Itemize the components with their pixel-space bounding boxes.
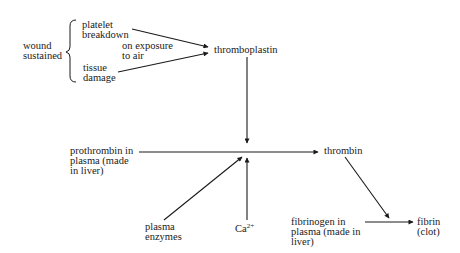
calcium-symbol: Ca bbox=[235, 223, 247, 234]
label-thrombin: thrombin bbox=[324, 146, 363, 156]
label-thromboplastin: thromboplastin bbox=[214, 45, 278, 55]
arrows-layer bbox=[0, 0, 460, 253]
label-plasma-enzymes: plasma enzymes bbox=[145, 222, 182, 242]
label-calcium: Ca2+ bbox=[235, 224, 254, 234]
arrow-enzymes-to-reaction bbox=[164, 157, 242, 220]
calcium-charge: 2+ bbox=[247, 222, 254, 230]
label-wound-sustained: wound sustained bbox=[23, 41, 62, 61]
label-fibrinogen: fibrinogen in plasma (made in liver) bbox=[291, 217, 360, 247]
label-tissue-damage: tissue damage bbox=[83, 63, 116, 83]
brace bbox=[66, 20, 76, 82]
clotting-diagram: wound sustained platelet breakdown on ex… bbox=[0, 0, 460, 253]
label-platelet-breakdown: platelet breakdown bbox=[82, 20, 129, 40]
label-fibrin-clot: fibrin (clot) bbox=[417, 217, 440, 237]
label-prothrombin: prothrombin in plasma (made in liver) bbox=[70, 146, 133, 176]
arrow-thrombin-to-fibrin bbox=[345, 157, 389, 218]
label-on-exposure-to-air: on exposure to air bbox=[122, 41, 173, 61]
